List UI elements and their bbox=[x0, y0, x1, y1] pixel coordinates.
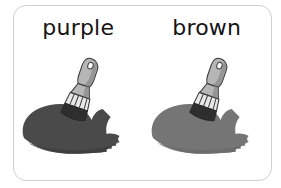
color-label-purple: purple bbox=[14, 17, 143, 39]
swatch-panel-brown: brown bbox=[143, 6, 272, 180]
paint-splash-brown-illustration bbox=[143, 48, 272, 172]
color-label-brown: brown bbox=[143, 17, 272, 39]
swatch-panel-purple: purple bbox=[14, 6, 143, 180]
paint-swatch-purple bbox=[14, 48, 143, 172]
paint-swatch-brown bbox=[143, 48, 272, 172]
paint-splash-purple-illustration bbox=[14, 48, 143, 172]
flashcard: purple bbox=[13, 5, 272, 181]
